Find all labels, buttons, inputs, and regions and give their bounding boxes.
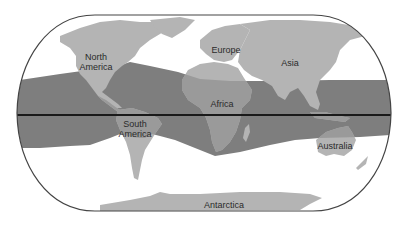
- label-antarctica: Antarctica: [204, 200, 244, 210]
- label-asia: Asia: [281, 58, 299, 68]
- label-africa: Africa: [210, 99, 233, 109]
- world-map: NorthAmerica Europe Asia Africa SouthAme…: [0, 0, 408, 227]
- label-south-america: SouthAmerica: [118, 119, 151, 139]
- label-europe: Europe: [211, 45, 240, 55]
- map-body: [0, 0, 408, 227]
- label-australia: Australia: [317, 141, 352, 151]
